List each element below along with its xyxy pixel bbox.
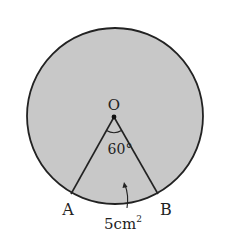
area-value: 5cm <box>104 215 136 233</box>
point-b-label: B <box>160 200 172 219</box>
area-exponent: 2 <box>136 214 142 224</box>
circle-sector-figure: O 60° A B 5cm2 <box>0 0 233 246</box>
angle-label: 60° <box>108 141 133 157</box>
center-point <box>112 115 117 120</box>
point-a-label: A <box>61 200 74 219</box>
area-label: 5cm2 <box>104 214 142 233</box>
center-label: O <box>108 96 120 114</box>
